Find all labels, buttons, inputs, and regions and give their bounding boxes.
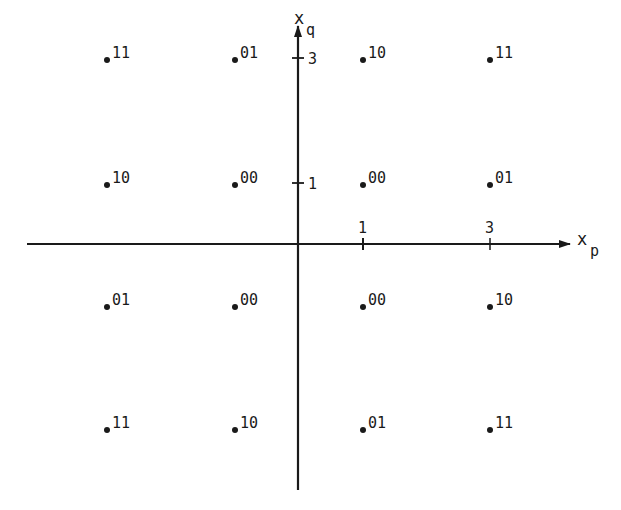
point-label: 10 <box>112 169 130 187</box>
constellation-point: 10 <box>232 414 258 433</box>
constellation-point: 01 <box>104 291 130 310</box>
constellation-point: 01 <box>232 44 258 63</box>
x-axis-subscript: p <box>590 242 599 260</box>
constellation-point: 01 <box>360 414 386 433</box>
point-label: 11 <box>112 44 130 62</box>
x-tick-label-3: 3 <box>485 219 494 237</box>
x-axis-label: x <box>577 229 587 249</box>
point-label: 01 <box>240 44 258 62</box>
constellation-point: 00 <box>232 291 258 310</box>
constellation-point: 00 <box>360 291 386 310</box>
point-label: 01 <box>495 169 513 187</box>
point-dot <box>360 57 366 63</box>
point-label: 00 <box>368 291 386 309</box>
constellation-point: 00 <box>232 169 258 188</box>
point-dot <box>360 304 366 310</box>
constellation-point: 11 <box>104 414 130 433</box>
point-dot <box>487 304 493 310</box>
point-label: 01 <box>368 414 386 432</box>
point-dot <box>104 304 110 310</box>
constellation-point: 10 <box>104 169 130 188</box>
y-axis-label: x <box>294 8 304 28</box>
point-label: 00 <box>240 291 258 309</box>
point-dot <box>232 427 238 433</box>
point-label: 00 <box>240 169 258 187</box>
y-axis-subscript: q <box>306 21 315 39</box>
point-dot <box>232 304 238 310</box>
point-dot <box>487 427 493 433</box>
point-label: 11 <box>112 414 130 432</box>
point-dot <box>360 182 366 188</box>
constellation-point: 11 <box>104 44 130 63</box>
point-label: 01 <box>112 291 130 309</box>
point-label: 10 <box>240 414 258 432</box>
x-tick-label-1: 1 <box>358 219 367 237</box>
point-label: 11 <box>495 414 513 432</box>
y-tick-label-1: 1 <box>308 175 317 193</box>
constellation-point: 11 <box>487 414 513 433</box>
point-label: 10 <box>368 44 386 62</box>
constellation-point: 00 <box>360 169 386 188</box>
point-label: 00 <box>368 169 386 187</box>
point-dot <box>487 57 493 63</box>
point-dot <box>487 182 493 188</box>
constellation-point: 01 <box>487 169 513 188</box>
point-label: 10 <box>495 291 513 309</box>
point-dot <box>232 57 238 63</box>
point-dot <box>360 427 366 433</box>
point-label: 11 <box>495 44 513 62</box>
point-dot <box>104 57 110 63</box>
point-dot <box>104 427 110 433</box>
constellation-point: 10 <box>487 291 513 310</box>
constellation-diagram: 1 3 1 3 x p x q 110110111000000101000010… <box>0 0 621 510</box>
point-dot <box>232 182 238 188</box>
constellation-point: 10 <box>360 44 386 63</box>
constellation-points: 11011011100000010100001011100111 <box>104 44 513 433</box>
point-dot <box>104 182 110 188</box>
y-tick-label-3: 3 <box>308 50 317 68</box>
constellation-point: 11 <box>487 44 513 63</box>
